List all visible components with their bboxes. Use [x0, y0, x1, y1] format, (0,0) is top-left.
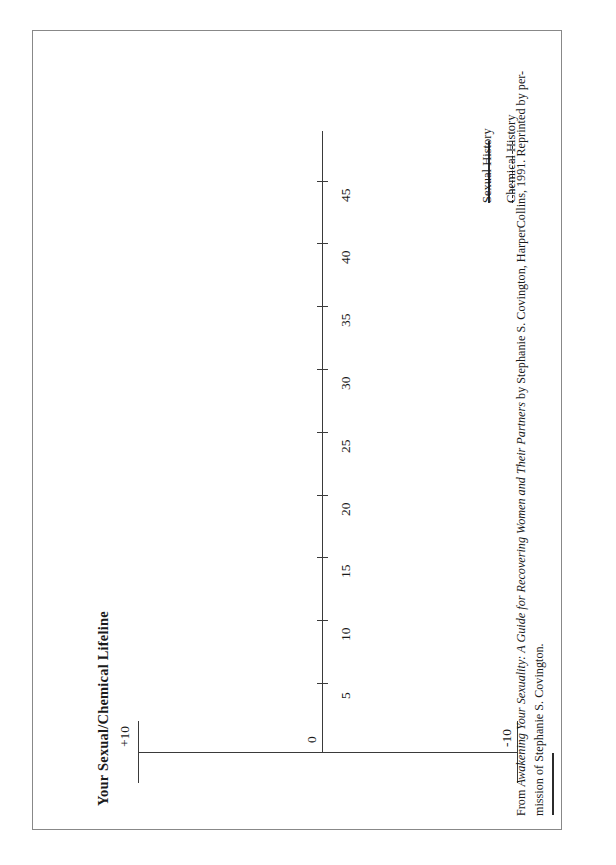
x-tick-25 [317, 432, 328, 433]
caption-line1-suffix: by Stephanie S. Covington, HarperCollins… [514, 71, 528, 402]
x-tick-label-5: 5 [338, 692, 354, 699]
x-tick-35 [317, 306, 328, 307]
caption-line-2: mission of Stephanie S. Covington. [533, 643, 545, 816]
y-axis-label-zero: 0 [304, 736, 320, 743]
x-tick-label-20: 20 [338, 503, 354, 517]
x-tick-5 [317, 683, 328, 684]
x-tick-40 [317, 243, 328, 244]
caption-line-1: From Awakening Your Sexuality: A Guide f… [515, 71, 527, 816]
x-axis-line [322, 131, 323, 753]
x-tick-10 [317, 620, 328, 621]
page-title: Your Sexual/Chemical Lifeline [95, 611, 112, 806]
x-tick-label-40: 40 [338, 251, 354, 265]
figure-frame: Your Sexual/Chemical Lifeline 5 10 15 20… [32, 30, 562, 830]
x-tick-label-45: 45 [338, 189, 354, 203]
x-tick-label-15: 15 [338, 565, 354, 579]
legend-label-sexual-history: Sexual History [480, 128, 495, 203]
y-axis-cap-plus10 [138, 721, 139, 783]
x-tick-label-25: 25 [338, 440, 354, 454]
x-tick-label-35: 35 [338, 314, 354, 328]
caption-line1-italic: Awakening Your Sexuality: A Guide for Re… [514, 402, 528, 787]
caption-divider-rule [552, 753, 554, 815]
x-tick-15 [317, 557, 328, 558]
y-axis-line [138, 752, 517, 753]
y-axis-label-minus10: -10 [499, 729, 515, 747]
caption-line1-prefix: From [514, 787, 528, 816]
x-tick-30 [317, 369, 328, 370]
x-tick-45 [317, 181, 328, 182]
x-tick-label-10: 10 [338, 628, 354, 642]
x-tick-label-30: 30 [338, 377, 354, 391]
y-axis-label-plus10: +10 [117, 726, 133, 747]
x-tick-20 [317, 495, 328, 496]
